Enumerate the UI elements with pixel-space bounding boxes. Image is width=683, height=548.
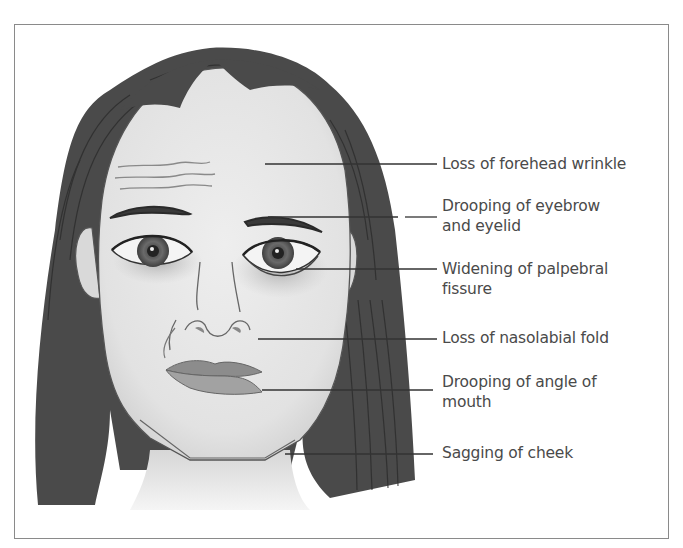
label-line: Loss of forehead wrinkle: [442, 154, 626, 174]
label-forehead-wrinkle: Loss of forehead wrinkle: [442, 154, 626, 174]
label-palpebral-fissure: Widening of palpebral fissure: [442, 259, 608, 299]
label-line: Sagging of cheek: [442, 443, 573, 463]
label-line: mouth: [442, 392, 596, 412]
label-nasolabial-fold: Loss of nasolabial fold: [442, 328, 609, 348]
label-line: Loss of nasolabial fold: [442, 328, 609, 348]
label-angle-of-mouth: Drooping of angle of mouth: [442, 372, 596, 412]
label-sagging-cheek: Sagging of cheek: [442, 443, 573, 463]
label-line: Drooping of angle of: [442, 372, 596, 392]
label-line: fissure: [442, 279, 608, 299]
label-line: Drooping of eyebrow: [442, 196, 600, 216]
label-line: Widening of palpebral: [442, 259, 608, 279]
label-drooping-eyebrow: Drooping of eyebrow and eyelid: [442, 196, 600, 236]
label-line: and eyelid: [442, 216, 600, 236]
